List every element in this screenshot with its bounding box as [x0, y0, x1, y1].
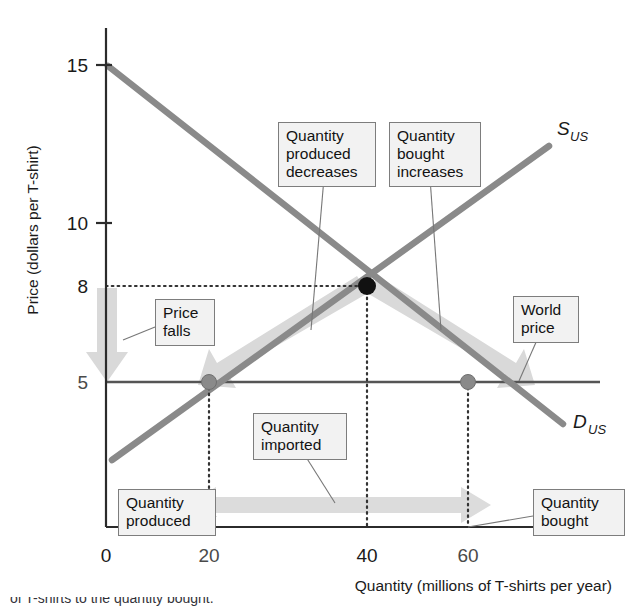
callout-quantity-bought: Quantity bought — [533, 489, 625, 536]
demand-curve-label: D US — [573, 411, 606, 437]
quantity-produced-marker — [202, 375, 217, 390]
quantity-bought-marker — [461, 375, 476, 390]
leader-quantity-imported — [306, 457, 335, 503]
caption-fragment: of T-shirts to the quantity bought. — [0, 597, 643, 613]
demand-curve-label-letter: D — [573, 411, 587, 432]
figure-container: 15 10 8 5 0 20 40 60 Price (dollars per … — [0, 0, 643, 613]
callout-quantity-produced: Quantity produced — [118, 489, 216, 536]
x-tick-label-60: 60 — [457, 545, 478, 566]
supply-curve-label-sub: US — [570, 129, 588, 144]
x-tick-label-40: 40 — [356, 545, 377, 566]
callout-world-price: World price — [513, 296, 579, 343]
supply-curve-label: S US — [557, 118, 588, 144]
caption-fragment-text: of T-shirts to the quantity bought. — [10, 597, 643, 606]
callout-quantity-bought-increases: Quantity bought increases — [389, 122, 481, 187]
y-axis-title: Price (dollars per T-shirt) — [24, 145, 41, 314]
y-tick-label-5: 5 — [77, 372, 88, 393]
y-tick-label-10: 10 — [67, 213, 88, 234]
callout-quantity-imported: Quantity imported — [253, 413, 347, 460]
demand-curve — [108, 66, 563, 424]
x-axis-title: Quantity (millions of T-shirts per year) — [355, 577, 612, 594]
demand-curve-label-sub: US — [588, 422, 606, 437]
callout-price-falls: Price falls — [155, 299, 215, 346]
leader-quantity-bought — [468, 516, 533, 527]
x-tick-label-0: 0 — [101, 545, 112, 566]
imports-span-arrow — [186, 487, 491, 523]
supply-curve-label-letter: S — [557, 118, 570, 139]
y-tick-label-15: 15 — [67, 55, 88, 76]
x-tick-label-20: 20 — [198, 545, 219, 566]
callout-quantity-produced-decreases: Quantity produced decreases — [278, 122, 376, 187]
y-tick-label-8: 8 — [77, 276, 88, 297]
leader-price-falls — [123, 327, 155, 340]
leader-bought-increases — [430, 178, 441, 330]
equilibrium-point-marker — [358, 277, 376, 295]
